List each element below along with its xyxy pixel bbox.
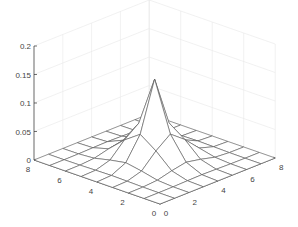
- surface-plot: 024680246800.050.10.150.2: [0, 0, 298, 227]
- z-tick-label: 0.2: [20, 42, 32, 51]
- y-tick-label: 2: [120, 198, 125, 207]
- y-tick-label: 8: [26, 165, 31, 174]
- z-tick-label: 0.05: [15, 128, 31, 137]
- z-tick-label: 0.1: [20, 99, 32, 108]
- x-tick-label: 2: [193, 198, 198, 207]
- z-tick-label: 0: [27, 156, 32, 165]
- x-tick-label: 4: [221, 186, 226, 195]
- x-tick-label: 8: [279, 163, 284, 172]
- x-tick-label: 6: [250, 175, 255, 184]
- y-tick-label: 6: [57, 176, 62, 185]
- x-tick-label: 0: [164, 209, 169, 218]
- z-tick-label: 0.15: [15, 71, 31, 80]
- y-tick-label: 0: [152, 209, 157, 218]
- y-tick-label: 4: [89, 187, 94, 196]
- surface-mesh: [34, 79, 275, 204]
